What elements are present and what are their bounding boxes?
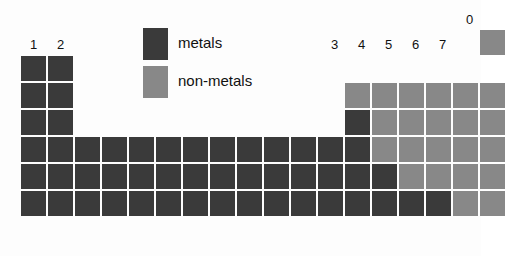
element-cell-nonmetal-r5-c16: [426, 164, 451, 189]
element-cell-nonmetal-r2-c17: [453, 83, 478, 108]
element-cell-metal-r6-c4: [102, 191, 127, 216]
element-cell-nonmetal-r2-c16: [426, 83, 451, 108]
element-cell-nonmetal-r3-c16: [426, 110, 451, 135]
element-cell-nonmetal-r4-c15: [399, 137, 424, 162]
element-cell-metal-r6-c11: [291, 191, 316, 216]
element-cell-metal-r5-c3: [75, 164, 100, 189]
element-cell-nonmetal-r2-c15: [399, 83, 424, 108]
element-cell-nonmetal-r5-c18: [480, 164, 505, 189]
element-cell-metal-r3-c2: [48, 110, 73, 135]
group-label-2: 2: [48, 38, 73, 52]
element-cell-metal-r5-c4: [102, 164, 127, 189]
element-cell-metal-r6-c13: [345, 191, 370, 216]
group-label-0: 0: [457, 13, 482, 27]
element-cell-metal-r2-c2: [48, 83, 73, 108]
element-cell-nonmetal-r2-c14: [372, 83, 397, 108]
element-cell-metal-r4-c12: [318, 137, 343, 162]
element-cell-metal-r4-c9: [237, 137, 262, 162]
element-cell-metal-r6-c7: [183, 191, 208, 216]
element-cell-metal-r5-c9: [237, 164, 262, 189]
element-cell-metal-r5-c11: [291, 164, 316, 189]
group-label-5: 5: [376, 38, 401, 52]
element-cell-nonmetal-r2-c18: [480, 83, 505, 108]
element-cell-nonmetal-r3-c14: [372, 110, 397, 135]
element-cell-metal-r5-c5: [129, 164, 154, 189]
group-label-1: 1: [21, 38, 46, 52]
element-cell-metal-r6-c15: [399, 191, 424, 216]
element-cell-metal-r6-c14: [372, 191, 397, 216]
element-cell-metal-r5-c8: [210, 164, 235, 189]
element-cell-nonmetal-r4-c16: [426, 137, 451, 162]
element-cell-metal-r5-c13: [345, 164, 370, 189]
element-cell-metal-r5-c14: [372, 164, 397, 189]
group-label-4: 4: [349, 38, 374, 52]
element-cell-metal-r4-c5: [129, 137, 154, 162]
element-cell-metal-r6-c6: [156, 191, 181, 216]
element-cell-metal-r2-c1: [21, 83, 46, 108]
element-cell-metal-r6-c8: [210, 191, 235, 216]
element-cell-metal-r6-c1: [21, 191, 46, 216]
element-cell-metal-r3-c13: [345, 110, 370, 135]
element-cell-metal-r5-c6: [156, 164, 181, 189]
element-cell-nonmetal-r3-c17: [453, 110, 478, 135]
group-label-3: 3: [322, 38, 347, 52]
element-cell-metal-r6-c3: [75, 191, 100, 216]
element-cell-nonmetal-r5-c17: [453, 164, 478, 189]
group-label-7: 7: [430, 38, 455, 52]
element-cell-metal-r4-c6: [156, 137, 181, 162]
element-cell-nonmetal-r3-c15: [399, 110, 424, 135]
element-cell-metal-r4-c2: [48, 137, 73, 162]
element-cell-metal-r5-c1: [21, 164, 46, 189]
legend-swatch-nonmetal: [143, 66, 168, 98]
legend-swatch-metal: [143, 28, 168, 60]
element-cell-metal-r4-c4: [102, 137, 127, 162]
element-cell-metal-r6-c12: [318, 191, 343, 216]
element-cell-metal-r6-c5: [129, 191, 154, 216]
element-cell-metal-r3-c1: [21, 110, 46, 135]
element-cell-metal-r6-c10: [264, 191, 289, 216]
element-cell-metal-r4-c7: [183, 137, 208, 162]
element-cell-metal-r6-c2: [48, 191, 73, 216]
legend-label-metal: metals: [178, 35, 222, 51]
element-cell-nonmetal-r3-c18: [480, 110, 505, 135]
element-cell-nonmetal-r4-c14: [372, 137, 397, 162]
element-cell-nonmetal-r2-c13: [345, 83, 370, 108]
element-cell-metal-r5-c10: [264, 164, 289, 189]
element-cell-metal-r1-c2: [48, 56, 73, 81]
element-cell-nonmetal-r6-c17: [453, 191, 478, 216]
element-cell-metal-r1-c1: [21, 56, 46, 81]
legend-label-nonmetal: non-metals: [178, 73, 252, 89]
element-cell-metal-r5-c7: [183, 164, 208, 189]
element-cell-metal-r6-c16: [426, 191, 451, 216]
element-cell-metal-r6-c9: [237, 191, 262, 216]
element-cell-nonmetal-r4-c17: [453, 137, 478, 162]
group-label-6: 6: [403, 38, 428, 52]
element-cell-metal-r4-c10: [264, 137, 289, 162]
element-cell-metal-r4-c8: [210, 137, 235, 162]
element-cell-nonmetal-r6-c18: [480, 191, 505, 216]
element-cell-nonmetal-r4-c18: [480, 137, 505, 162]
element-cell-metal-r4-c1: [21, 137, 46, 162]
element-cell-metal-r4-c13: [345, 137, 370, 162]
element-cell-metal-r5-c12: [318, 164, 343, 189]
element-cell-metal-r4-c3: [75, 137, 100, 162]
element-cell-metal-r4-c11: [291, 137, 316, 162]
element-cell-nonmetal-r1-c18: [480, 30, 505, 55]
element-cell-nonmetal-r5-c15: [399, 164, 424, 189]
element-cell-metal-r5-c2: [48, 164, 73, 189]
